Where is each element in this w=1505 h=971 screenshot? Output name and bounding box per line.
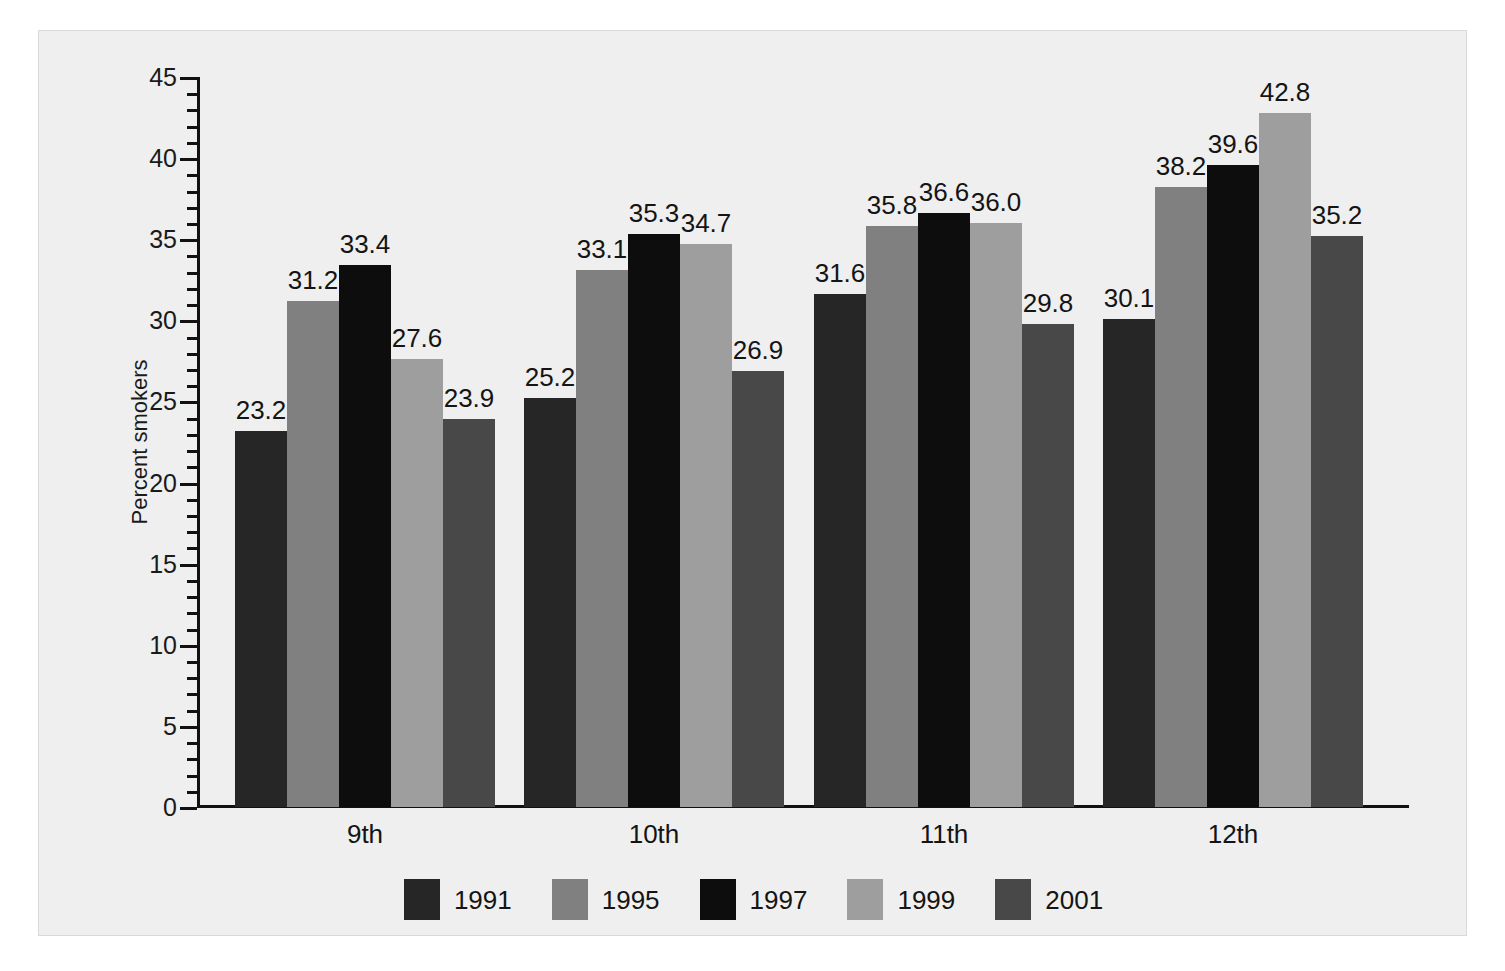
y-axis-major-tick	[180, 239, 197, 242]
y-axis-minor-tick	[187, 466, 197, 469]
bar-item[interactable]: 26.9	[732, 77, 784, 807]
bar-value-label: 23.9	[444, 385, 495, 411]
bar-item[interactable]: 33.1	[576, 77, 628, 807]
y-axis-minor-tick	[187, 499, 197, 502]
bar[interactable]	[235, 431, 287, 807]
bar-item[interactable]: 31.6	[814, 77, 866, 807]
y-axis-minor-tick	[187, 174, 197, 177]
bar-value-label: 35.8	[867, 192, 918, 218]
legend-item[interactable]: 2001	[995, 879, 1103, 920]
legend-label: 1991	[454, 887, 512, 913]
bar[interactable]	[287, 301, 339, 807]
y-axis-major-tick	[180, 320, 197, 323]
bar-item[interactable]: 39.6	[1207, 77, 1259, 807]
y-axis-minor-tick	[187, 580, 197, 583]
bar-item[interactable]: 36.6	[918, 77, 970, 807]
y-axis-minor-tick	[187, 288, 197, 291]
y-axis-minor-tick	[187, 418, 197, 421]
bar-item[interactable]: 35.8	[866, 77, 918, 807]
bar[interactable]	[628, 234, 680, 807]
y-axis-title: Percent smokers	[127, 359, 153, 524]
bar[interactable]	[1259, 113, 1311, 807]
bar-item[interactable]: 23.2	[235, 77, 287, 807]
bar-value-label: 30.1	[1104, 285, 1155, 311]
y-axis-minor-tick	[187, 93, 197, 96]
bar[interactable]	[391, 359, 443, 807]
legend-item[interactable]: 1997	[700, 879, 808, 920]
bar-group: 30.138.239.642.835.2	[1103, 77, 1363, 807]
bar-value-label: 33.1	[577, 236, 628, 262]
bar[interactable]	[1207, 165, 1259, 807]
bar-group: 23.231.233.427.623.9	[235, 77, 495, 807]
legend-label: 2001	[1045, 887, 1103, 913]
bar-item[interactable]: 30.1	[1103, 77, 1155, 807]
bar-item[interactable]: 35.3	[628, 77, 680, 807]
bar[interactable]	[339, 265, 391, 807]
bar-item[interactable]: 23.9	[443, 77, 495, 807]
bar[interactable]	[1311, 236, 1363, 807]
bar-value-label: 31.6	[815, 260, 866, 286]
bar[interactable]	[918, 213, 970, 807]
y-axis-major-tick	[180, 645, 197, 648]
bar-value-label: 34.7	[681, 210, 732, 236]
legend-item[interactable]: 1991	[404, 879, 512, 920]
bar[interactable]	[970, 223, 1022, 807]
x-axis-category-label: 9th	[347, 821, 383, 847]
y-axis-minor-tick	[187, 742, 197, 745]
y-axis-major-tick	[180, 807, 197, 810]
bar-item[interactable]: 33.4	[339, 77, 391, 807]
legend-label: 1997	[750, 887, 808, 913]
bar[interactable]	[866, 226, 918, 807]
bar-item[interactable]: 36.0	[970, 77, 1022, 807]
y-axis-minor-tick	[187, 385, 197, 388]
bar-item[interactable]: 25.2	[524, 77, 576, 807]
y-axis-major-tick	[180, 401, 197, 404]
legend-item[interactable]: 1995	[552, 879, 660, 920]
bar-value-label: 25.2	[525, 364, 576, 390]
x-axis-category-label: 11th	[920, 821, 969, 847]
y-axis-minor-tick	[187, 207, 197, 210]
y-axis-minor-tick	[187, 661, 197, 664]
bar-value-label: 26.9	[733, 337, 784, 363]
bar-item[interactable]: 29.8	[1022, 77, 1074, 807]
legend-swatch	[847, 879, 883, 920]
bar[interactable]	[524, 398, 576, 807]
bar[interactable]	[443, 419, 495, 807]
y-axis-minor-tick	[187, 369, 197, 372]
y-axis-minor-tick	[187, 515, 197, 518]
bar-value-label: 39.6	[1208, 131, 1259, 157]
y-axis-tick-label: 25	[149, 389, 177, 414]
legend-item[interactable]: 1999	[847, 879, 955, 920]
y-axis-minor-tick	[187, 255, 197, 258]
y-axis-minor-tick	[187, 353, 197, 356]
bar[interactable]	[1103, 319, 1155, 807]
bar-item[interactable]: 31.2	[287, 77, 339, 807]
bar-item[interactable]: 42.8	[1259, 77, 1311, 807]
y-axis-tick-label: 15	[149, 552, 177, 577]
bar-item[interactable]: 38.2	[1155, 77, 1207, 807]
bar-value-label: 36.6	[919, 179, 970, 205]
bar-group: 31.635.836.636.029.8	[814, 77, 1074, 807]
legend-swatch	[552, 879, 588, 920]
x-axis-category-label: 10th	[629, 821, 680, 847]
bar-item[interactable]: 27.6	[391, 77, 443, 807]
legend-label: 1995	[602, 887, 660, 913]
y-axis-minor-tick	[187, 791, 197, 794]
bar[interactable]	[814, 294, 866, 807]
legend-swatch	[700, 879, 736, 920]
bar[interactable]	[1155, 187, 1207, 807]
bar[interactable]	[576, 270, 628, 807]
x-axis-category-label: 12th	[1208, 821, 1259, 847]
bar[interactable]	[680, 244, 732, 807]
chart-canvas: 051015202530354045 Percent smokers 23.23…	[38, 30, 1467, 936]
y-axis-major-tick	[180, 726, 197, 729]
bar-item[interactable]: 34.7	[680, 77, 732, 807]
y-axis-tick-label: 0	[163, 795, 177, 820]
bar[interactable]	[1022, 324, 1074, 807]
y-axis-tick-label: 30	[149, 308, 177, 333]
y-axis-minor-tick	[187, 434, 197, 437]
y-axis-tick-label: 10	[149, 633, 177, 658]
y-axis-minor-tick	[187, 109, 197, 112]
bar[interactable]	[732, 371, 784, 807]
bar-item[interactable]: 35.2	[1311, 77, 1363, 807]
